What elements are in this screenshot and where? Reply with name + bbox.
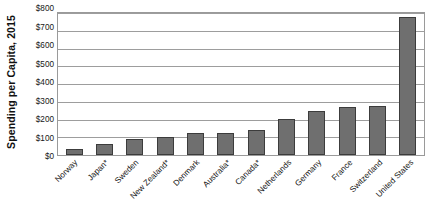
y-axis-tick-label: $500 xyxy=(36,59,54,68)
x-axis-tick-slot: Germany xyxy=(302,156,333,215)
bar-slot xyxy=(241,13,271,155)
bar-slot xyxy=(332,13,362,155)
y-axis-tick-label: $800 xyxy=(36,4,54,13)
bar-slot xyxy=(89,13,119,155)
bar[interactable] xyxy=(187,133,204,155)
bar-chart-figure: Spending per Capita, 2015 $800$700$600$5… xyxy=(0,0,442,215)
y-axis-tick-label: $200 xyxy=(36,115,54,124)
bars-layer xyxy=(58,13,424,155)
x-axis-tick-slot: United States xyxy=(394,156,425,215)
y-axis-tick-label: $100 xyxy=(36,133,54,142)
x-axis-tick-slot: Australia* xyxy=(211,156,242,215)
x-axis-tick-label: Norway xyxy=(54,158,80,184)
y-axis-tick-label: $600 xyxy=(36,41,54,50)
bar[interactable] xyxy=(217,133,234,155)
bar[interactable] xyxy=(157,137,174,155)
y-axis-tick-label: $0 xyxy=(45,152,54,161)
bar[interactable] xyxy=(278,119,295,155)
bar[interactable] xyxy=(126,139,143,156)
bar-slot xyxy=(393,13,423,155)
bar-slot xyxy=(180,13,210,155)
bar[interactable] xyxy=(66,149,83,155)
bar[interactable] xyxy=(308,111,325,155)
y-axis-tick-label: $400 xyxy=(36,78,54,87)
x-axis-tick-slot: Norway xyxy=(58,156,89,215)
y-axis-tick-labels: $800$700$600$500$400$300$200$100$0 xyxy=(20,8,57,156)
x-axis-tick-label: Japan* xyxy=(86,158,110,182)
plot-area xyxy=(57,12,425,156)
y-axis-title: Spending per Capita, 2015 xyxy=(0,0,22,163)
bar-slot xyxy=(211,13,241,155)
bar-slot xyxy=(271,13,301,155)
bar[interactable] xyxy=(248,130,265,155)
bar[interactable] xyxy=(399,17,416,155)
bar[interactable] xyxy=(339,107,356,155)
x-axis-tick-slot: Japan* xyxy=(89,156,120,215)
x-axis-tick-label: France xyxy=(330,158,354,182)
bar-slot xyxy=(59,13,89,155)
x-axis-tick-labels: NorwayJapan*SwedenNew Zealand*DenmarkAus… xyxy=(57,156,425,215)
y-axis-tick-label: $300 xyxy=(36,96,54,105)
y-axis-title-label: Spending per Capita, 2015 xyxy=(5,15,17,149)
bar[interactable] xyxy=(369,106,386,155)
bar-slot xyxy=(150,13,180,155)
bar-slot xyxy=(362,13,392,155)
bar[interactable] xyxy=(96,144,113,155)
bar-slot xyxy=(120,13,150,155)
bar-slot xyxy=(302,13,332,155)
y-axis-tick-label: $700 xyxy=(36,22,54,31)
